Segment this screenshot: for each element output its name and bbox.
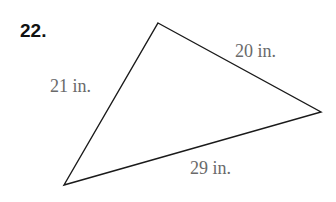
side-label-bottom: 29 in.	[190, 158, 231, 179]
side-label-upper-right: 20 in.	[235, 41, 276, 62]
triangle-diagram	[0, 0, 336, 202]
side-label-left: 21 in.	[50, 76, 91, 97]
